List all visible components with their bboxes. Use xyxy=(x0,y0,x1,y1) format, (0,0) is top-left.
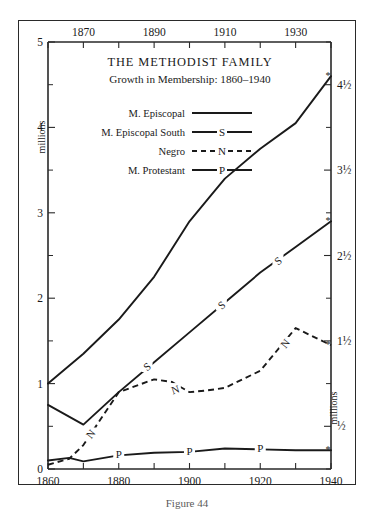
top-axis-tick-label: 1890 xyxy=(143,26,166,38)
bottom-axis-tick-label: 1900 xyxy=(178,475,201,487)
left-axis-tick-label: 3 xyxy=(37,207,43,219)
series-end-marker: * xyxy=(326,215,331,226)
legend-label-2: Negro xyxy=(159,146,185,157)
bottom-axis-tick-label: 1920 xyxy=(249,475,272,487)
plot-frame xyxy=(48,42,331,469)
methodist-family-line-chart: ****SSSNNNPPP 18701890191019301860188019… xyxy=(0,0,374,515)
left-axis-tick-label: 2 xyxy=(37,292,43,304)
series-end-marker: * xyxy=(326,70,331,81)
series-marker-p: P xyxy=(257,442,263,454)
legend-label-1: M. Episcopal South xyxy=(101,127,186,138)
series-line-m-episcopal-south xyxy=(48,221,331,424)
left-axis-title: millions xyxy=(36,121,47,154)
legend-marker-n: N xyxy=(218,145,226,157)
top-axis-tick-label: 1870 xyxy=(72,26,95,38)
series-end-marker: * xyxy=(326,339,331,350)
left-axis-tick-label: 1 xyxy=(37,378,43,390)
bottom-axis-tick-label: 1940 xyxy=(320,475,343,487)
legend-label-3: M. Protestant xyxy=(128,165,185,176)
top-axis-tick-label: 1910 xyxy=(213,26,236,38)
legend-marker-p: P xyxy=(219,164,225,176)
chart-subtitle: Growth in Membership: 1860–1940 xyxy=(109,73,271,85)
right-axis-tick-label: 1½ xyxy=(337,335,352,347)
labels-layer: 1870189019101930186018801900192019400123… xyxy=(37,26,352,487)
legend-marker-s: S xyxy=(219,126,225,138)
chart-canvas: ****SSSNNNPPP 18701890191019301860188019… xyxy=(0,0,374,515)
chart-title: THE METHODIST FAMILY xyxy=(108,55,273,69)
series-marker-p: P xyxy=(186,445,192,457)
legend: M. EpiscopalM. Episcopal SouthSNegroNM. … xyxy=(101,108,252,176)
right-axis-tick-label: 4½ xyxy=(337,79,352,91)
right-axis-tick-label: 3½ xyxy=(337,164,352,176)
right-axis-tick-label: 2½ xyxy=(337,250,352,262)
left-axis-tick-label: 0 xyxy=(37,463,43,475)
legend-label-0: M. Episcopal xyxy=(129,108,186,119)
bottom-axis-tick-label: 1860 xyxy=(37,475,60,487)
right-axis-title: millions xyxy=(328,392,339,425)
series-marker-p: P xyxy=(116,448,122,460)
series-layer: ****SSSNNNPPP xyxy=(48,70,331,465)
bottom-axis-tick-label: 1880 xyxy=(107,475,130,487)
figure-caption: Figure 44 xyxy=(0,497,374,509)
left-axis-tick-label: 5 xyxy=(37,36,43,48)
axes-layer xyxy=(48,42,331,469)
top-axis-tick-label: 1930 xyxy=(284,26,307,38)
series-end-marker: * xyxy=(326,444,331,455)
